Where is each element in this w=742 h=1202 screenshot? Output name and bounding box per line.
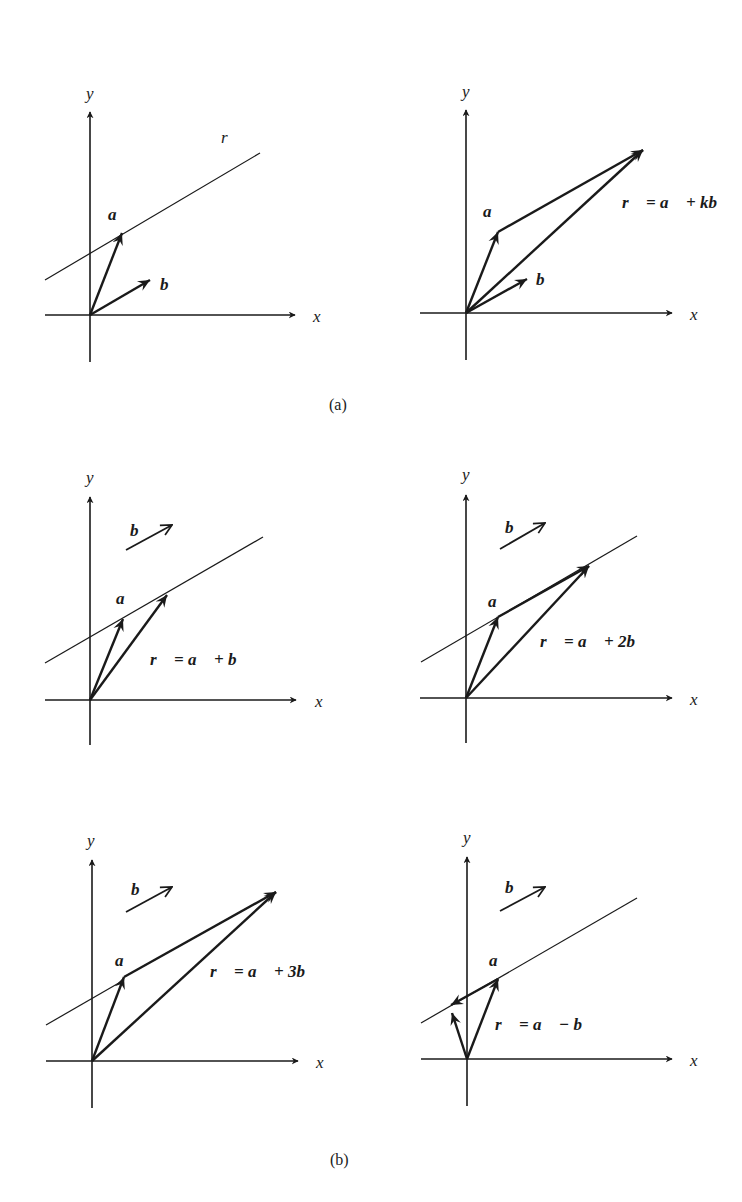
panel-b-k3: y x b⃗ a⃗ r⃗ = a⃗ + 3b⃗: [46, 831, 324, 1108]
panel-b-kminus1: y x b⃗ a⃗ r⃗ = a⃗ − b⃗: [421, 828, 698, 1106]
vector-a-label: a⃗: [116, 589, 138, 608]
equation-label: r⃗ = a⃗ + 3b⃗: [210, 962, 318, 981]
vector-minus-b: [451, 979, 498, 1005]
x-axis-label: x: [315, 1053, 324, 1072]
equation-label: r⃗ = a⃗ + 2b⃗: [540, 632, 648, 651]
vector-kb: [498, 150, 643, 232]
equation-label: r⃗ = a⃗ + b⃗: [150, 650, 250, 669]
vector-a-label: a⃗: [488, 592, 510, 611]
vector-2b: [498, 566, 589, 617]
panel-a-left: y x r a⃗ b⃗: [45, 84, 321, 362]
y-axis-label: y: [461, 828, 471, 847]
line-r: [46, 980, 124, 1025]
y-axis-label: y: [460, 82, 470, 101]
vector-r: [452, 1013, 467, 1059]
equation-label: r⃗ = a⃗ + kb⃗: [622, 193, 730, 212]
panel-b-k2: y x b⃗ a⃗ r⃗ = a⃗ + 2b⃗: [420, 465, 698, 743]
equation-label: r⃗ = a⃗ − b⃗: [495, 1015, 595, 1034]
line-r-label: r: [221, 128, 228, 147]
caption-b: (b): [330, 1151, 349, 1169]
vector-r: [90, 595, 167, 700]
panel-a-right: y x a⃗ b⃗ r⃗ = a⃗ + kb⃗: [420, 82, 730, 360]
vector-b: [90, 280, 150, 315]
x-axis-label: x: [312, 307, 321, 326]
y-axis-label: y: [84, 84, 94, 103]
panel-b-k1: y x b⃗ a⃗ r⃗ = a⃗ + b⃗: [45, 468, 323, 745]
vector-b-label: b⃗: [536, 270, 558, 289]
y-axis-label: y: [460, 465, 470, 484]
free-vector-b-label: b⃗: [130, 521, 152, 540]
vector-a-label: a⃗: [108, 205, 130, 224]
vector-a: [90, 619, 123, 700]
vector-a-label: a⃗: [483, 202, 505, 221]
vector-a: [90, 233, 122, 315]
vector-a: [466, 617, 498, 698]
vector-a-label: a⃗: [489, 951, 511, 970]
vector-b-label: b⃗: [160, 275, 182, 294]
free-vector-b-label: b⃗: [131, 880, 153, 899]
x-axis-label: x: [689, 305, 698, 324]
vector-a: [466, 232, 498, 313]
free-vector-b-label: b⃗: [505, 518, 527, 537]
x-axis-label: x: [689, 1051, 698, 1070]
x-axis-label: x: [689, 690, 698, 709]
vector-a: [467, 979, 498, 1059]
line-r: [45, 153, 260, 280]
line-r: [45, 537, 263, 663]
x-axis-label: x: [314, 692, 323, 711]
vector-a-label: a⃗: [115, 951, 137, 970]
vector-line-figure: y x r a⃗ b⃗ y x a⃗ b⃗ r⃗ = a⃗ + kb⃗ (a) …: [0, 0, 742, 1202]
free-vector-b-label: b⃗: [505, 878, 527, 897]
y-axis-label: y: [85, 831, 95, 850]
y-axis-label: y: [84, 468, 94, 487]
caption-a: (a): [329, 396, 347, 414]
